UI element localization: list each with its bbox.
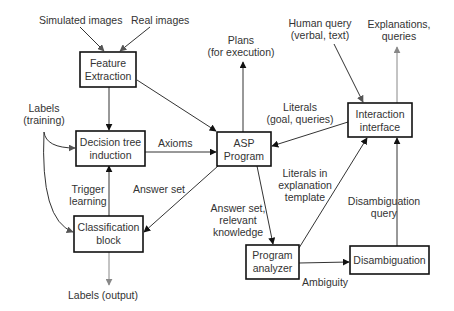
label-literals-explanation: explanation (278, 179, 332, 191)
node-label: Extraction (85, 70, 132, 82)
label-trigger-learning: learning (69, 195, 107, 207)
label-literals: Literals (283, 101, 317, 113)
label-answer-relevant: Answer set, (211, 202, 266, 214)
label-answer-set: Answer set (133, 183, 185, 195)
node-classification-block: Classification block (74, 216, 143, 252)
node-interaction-interface: Interaction interface (348, 103, 412, 137)
label-explanations: Explanations, (367, 18, 430, 30)
label-labels-output: Labels (output) (68, 289, 138, 301)
label-plans: Plans (228, 34, 254, 46)
label-simulated-images: Simulated images (39, 14, 122, 26)
node-label: induction (89, 149, 131, 161)
node-label: ASP (233, 137, 254, 149)
label-trigger-learning: Trigger (72, 183, 105, 195)
edge-human-to-interaction (334, 44, 363, 102)
label-plans: (for execution) (207, 46, 274, 58)
edge-analyzer-to-disambiguation (299, 262, 349, 263)
node-label: interface (360, 121, 400, 133)
node-label: Program (224, 150, 265, 162)
edge-feature-to-asp (137, 80, 216, 131)
node-label: Decision tree (80, 136, 141, 148)
label-real-images: Real images (131, 14, 189, 26)
label-disambiguation-query: Disambiguation (348, 195, 421, 207)
label-axioms: Axioms (158, 137, 192, 149)
label-disambiguation-query: query (371, 207, 398, 219)
label-ambiguity: Ambiguity (302, 276, 349, 288)
label-literals-explanation: Literals in (283, 167, 328, 179)
node-label: Disambiguation (353, 254, 426, 266)
edge-simulated-to-feature (80, 27, 104, 51)
node-label: Interaction (355, 108, 404, 120)
label-labels-training: (training) (23, 114, 64, 126)
node-label: analyzer (253, 262, 293, 274)
label-explanations: queries (382, 30, 416, 42)
label-labels-training: Labels (29, 102, 60, 114)
edge-asp-to-classification (144, 166, 218, 232)
node-decision-tree-induction: Decision tree induction (76, 131, 145, 166)
edge-real-to-feature (120, 27, 150, 51)
node-label: Classification (78, 221, 140, 233)
node-label: Program (252, 249, 293, 261)
label-human-query: Human query (288, 17, 352, 29)
edge-labels-to-classification (44, 132, 73, 232)
node-disambiguation: Disambiguation (350, 246, 429, 274)
node-program-analyzer: Program analyzer (246, 245, 299, 279)
label-answer-relevant: relevant (219, 214, 256, 226)
node-label: block (96, 234, 121, 246)
node-asp-program: ASP Program (217, 132, 271, 166)
label-answer-relevant: knowledge (213, 226, 263, 238)
label-human-query: (verbal, text) (291, 29, 349, 41)
label-literals-explanation: template (285, 191, 325, 203)
architecture-diagram: Feature Extraction Decision tree inducti… (0, 0, 454, 311)
label-literals: (goal, queries) (266, 113, 333, 125)
edge-interaction-to-asp (272, 122, 348, 146)
node-label: Feature (90, 57, 126, 69)
edge-labels-to-decision (44, 132, 75, 148)
node-feature-extraction: Feature Extraction (80, 52, 136, 87)
